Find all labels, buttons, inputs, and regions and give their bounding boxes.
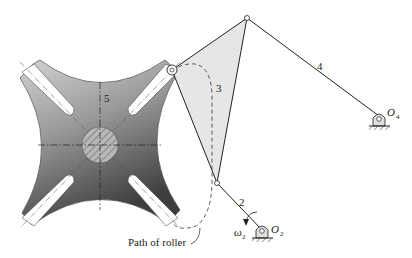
o4-label: O: [387, 106, 395, 118]
link-2-label: 2: [239, 196, 245, 208]
ground-pivot-o2: O 2: [252, 223, 284, 242]
coupler-link-3: 3: [172, 18, 247, 183]
geneva-wheel: 5: [20, 60, 180, 228]
joint-crank: [215, 181, 220, 186]
joint-top: [245, 16, 250, 21]
omega-label: ω: [234, 226, 242, 238]
link-4: [247, 18, 379, 116]
roller: [167, 65, 177, 75]
link-5-label: 5: [104, 92, 110, 104]
o2-label: O: [271, 223, 279, 235]
link-4-label: 4: [317, 60, 323, 72]
geneva-mechanism-diagram: 5 3 4 2 O 4 O 2 ω 2: [0, 0, 412, 258]
ground-pivot-o4: O 4: [369, 106, 400, 130]
roller-path-leader: [191, 228, 200, 244]
coupler-body: [172, 18, 247, 183]
o4-subscript: 4: [396, 113, 400, 121]
roller-path-label: Path of roller: [128, 236, 186, 248]
angular-velocity-arrow: ω 2: [234, 212, 257, 241]
link-3-label: 3: [216, 82, 222, 94]
o2-subscript: 2: [280, 230, 284, 238]
omega-subscript: 2: [242, 233, 246, 241]
